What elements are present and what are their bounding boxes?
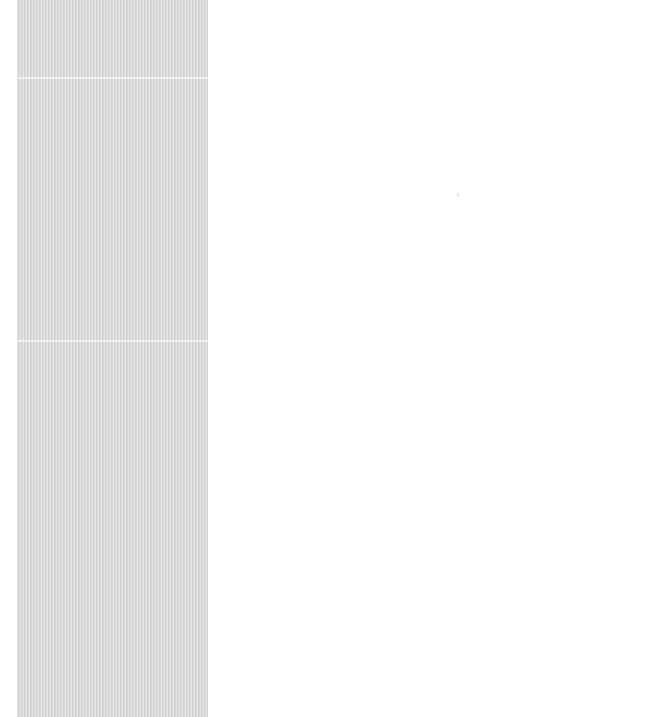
sidebar-divider [17, 77, 208, 79]
sidebar-panel [17, 0, 208, 717]
main-content-area [208, 0, 646, 717]
window-edge [0, 0, 17, 717]
artifact-mark [457, 193, 459, 197]
sidebar-divider [17, 340, 208, 342]
